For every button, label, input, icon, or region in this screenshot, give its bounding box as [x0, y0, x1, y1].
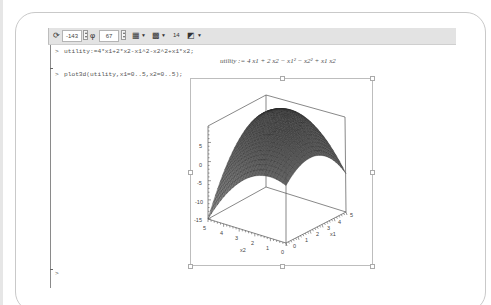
svg-text:-10: -10 [195, 199, 203, 205]
svg-text:3: 3 [235, 235, 238, 241]
surface-mesh [208, 109, 346, 220]
svg-text:4: 4 [338, 219, 341, 225]
svg-text:5: 5 [199, 143, 202, 149]
svg-text:0: 0 [281, 249, 284, 255]
svg-text:5: 5 [350, 212, 353, 218]
svg-text:x1: x1 [330, 231, 336, 237]
svg-text:-15: -15 [194, 217, 202, 223]
svg-text:0: 0 [199, 162, 202, 168]
svg-text:2: 2 [316, 231, 319, 237]
svg-text:1: 1 [266, 245, 269, 251]
plot3d-surface: 5 0 -5 -10 -15 5 4 3 2 1 0 x2 0 1 2 3 4 … [0, 0, 491, 305]
svg-text:1: 1 [305, 237, 308, 243]
svg-text:x2: x2 [240, 247, 246, 253]
svg-text:4: 4 [220, 230, 223, 236]
svg-text:2: 2 [251, 240, 254, 246]
svg-text:-5: -5 [197, 180, 202, 186]
svg-text:5: 5 [203, 225, 206, 231]
svg-text:0: 0 [293, 243, 296, 249]
